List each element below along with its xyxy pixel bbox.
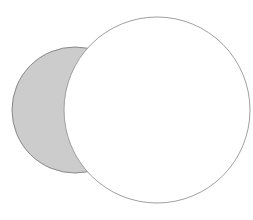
diagram-canvas	[0, 0, 253, 220]
white-circle	[64, 17, 250, 203]
